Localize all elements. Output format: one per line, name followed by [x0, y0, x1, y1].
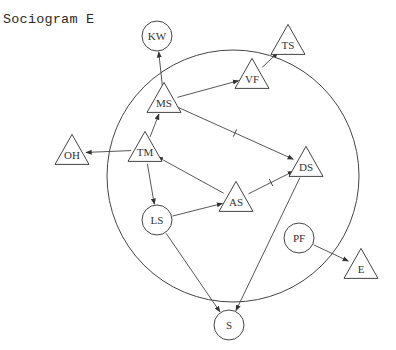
node-e: E: [344, 248, 378, 278]
edge-pf-to-e: [313, 245, 348, 261]
node-label: S: [226, 319, 232, 331]
node-as: AS: [219, 181, 253, 211]
node-label: AS: [229, 196, 243, 208]
edge-tm-to-oh: [86, 151, 131, 153]
node-ls: LS: [142, 205, 172, 235]
mutual-tick-mark: [269, 179, 273, 186]
node-tm: TM: [128, 131, 162, 161]
edge-ms-to-ds: [177, 107, 293, 159]
edge-tm-to-ls: [147, 164, 154, 204]
node-oh: OH: [55, 134, 89, 164]
node-label: MS: [156, 97, 172, 109]
node-pf: PF: [284, 223, 314, 253]
edge-ms-to-vf: [178, 81, 239, 98]
node-ds: DS: [289, 146, 323, 176]
mutual-tick-mark: [233, 129, 236, 136]
node-ts: TS: [271, 24, 305, 54]
node-label: TM: [137, 146, 154, 158]
edge-ls-to-as: [173, 203, 223, 216]
edge-tm-to-ms: [150, 114, 159, 137]
nodes: KWTSVFMSOHTMDSASLSPFES: [55, 21, 378, 340]
node-label: KW: [148, 30, 167, 42]
node-ms: MS: [147, 82, 181, 112]
node-label: E: [358, 263, 365, 275]
edges: [86, 52, 348, 312]
sociogram-diagram: KWTSVFMSOHTMDSASLSPFES: [0, 0, 396, 350]
node-label: LS: [151, 214, 164, 226]
node-vf: VF: [235, 58, 269, 88]
node-s: S: [214, 310, 244, 340]
node-label: VF: [245, 73, 259, 85]
node-label: OH: [64, 149, 80, 161]
edge-as-to-ds: [249, 171, 294, 193]
node-kw: KW: [142, 21, 172, 51]
edge-as-to-tm: [157, 157, 223, 194]
node-label: PF: [293, 232, 305, 244]
edge-ms-to-kw: [159, 52, 163, 87]
edge-ls-to-s: [166, 233, 220, 312]
node-label: TS: [282, 39, 295, 51]
node-label: DS: [299, 161, 313, 173]
